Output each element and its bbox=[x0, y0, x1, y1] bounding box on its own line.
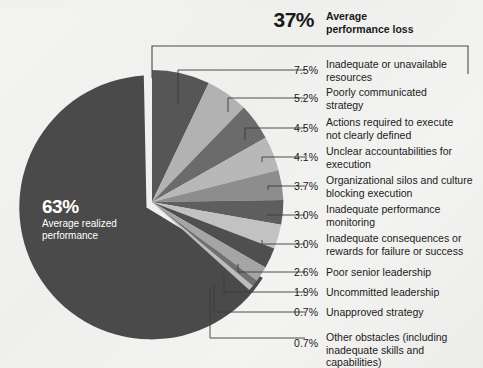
legend-percent-2: 4.5% bbox=[274, 122, 318, 134]
legend-label-7: Poor senior leadership bbox=[326, 266, 482, 279]
legend-percent-1: 5.2% bbox=[274, 92, 318, 104]
legend-label-2-line1: Actions required to execute bbox=[326, 116, 482, 129]
legend-percent-6: 3.0% bbox=[274, 238, 318, 250]
main-slice-percent: 63% bbox=[42, 196, 79, 218]
legend-label-2-line2: not clearly defined bbox=[326, 129, 482, 142]
legend-label-3: Unclear accountabilities for execution bbox=[326, 145, 482, 170]
legend-percent-0: 7.5% bbox=[274, 64, 318, 76]
legend-label-6-line1: Inadequate consequences or bbox=[326, 232, 482, 245]
legend-label-1-line2: strategy bbox=[326, 99, 482, 112]
legend-label-7-line1: Poor senior leadership bbox=[326, 266, 482, 279]
legend-label-2: Actions required to execute not clearly … bbox=[326, 116, 482, 141]
legend-label-5: Inadequate performance monitoring bbox=[326, 203, 482, 228]
legend-label-9: Unapproved strategy bbox=[326, 306, 482, 319]
legend-label-5-line1: Inadequate performance bbox=[326, 203, 482, 216]
legend-label-1: Poorly communicated strategy bbox=[326, 86, 482, 111]
legend-label-10-line2: inadequate skills and capabilities) bbox=[326, 344, 482, 368]
group-total-title: Average performance loss bbox=[326, 10, 476, 35]
legend-label-5-line2: monitoring bbox=[326, 216, 482, 229]
main-slice-label: Average realized performance bbox=[42, 218, 152, 242]
legend-percent-3: 4.1% bbox=[274, 151, 318, 163]
legend-label-0-line1: Inadequate or unavailable bbox=[326, 58, 482, 71]
legend-label-4-line1: Organizational silos and culture bbox=[326, 174, 482, 187]
legend-label-3-line2: execution bbox=[326, 158, 482, 171]
legend-label-3-line1: Unclear accountabilities for bbox=[326, 145, 482, 158]
group-total-title-line2: performance loss bbox=[326, 23, 476, 36]
legend-percent-4: 3.7% bbox=[274, 180, 318, 192]
legend-label-10: Other obstacles (including inadequate sk… bbox=[326, 331, 482, 368]
group-total-title-line1: Average bbox=[326, 10, 476, 23]
legend-label-9-line1: Unapproved strategy bbox=[326, 306, 482, 319]
legend-label-0-line2: resources bbox=[326, 71, 482, 84]
legend-label-0: Inadequate or unavailable resources bbox=[326, 58, 482, 83]
legend-label-10-line1: Other obstacles (including bbox=[326, 331, 482, 344]
legend-percent-10: 0.7% bbox=[274, 337, 318, 349]
legend-label-6-line2: rewards for failure or success bbox=[326, 245, 482, 258]
legend-percent-9: 0.7% bbox=[274, 306, 318, 318]
legend-percent-7: 2.6% bbox=[274, 266, 318, 278]
legend-label-4-line2: blocking execution bbox=[326, 187, 482, 200]
legend-label-8: Uncommitted leadership bbox=[326, 286, 482, 299]
legend-percent-8: 1.9% bbox=[274, 286, 318, 298]
legend-label-6: Inadequate consequences or rewards for f… bbox=[326, 232, 482, 257]
main-slice-label-line1: Average realized bbox=[42, 218, 152, 230]
legend-label-4: Organizational silos and culture blockin… bbox=[326, 174, 482, 199]
legend-percent-5: 3.0% bbox=[274, 209, 318, 221]
legend-label-8-line1: Uncommitted leadership bbox=[326, 286, 482, 299]
main-slice-label-line2: performance bbox=[42, 230, 152, 242]
legend-label-1-line1: Poorly communicated bbox=[326, 86, 482, 99]
chart-canvas: 37% Average performance loss 63% Average… bbox=[0, 0, 483, 368]
group-total-percent: 37% bbox=[228, 8, 314, 32]
